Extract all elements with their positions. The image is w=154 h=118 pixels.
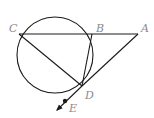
geometry-diagram: C B A D E <box>0 0 154 118</box>
label-b: B <box>95 22 104 35</box>
point-e-dot <box>63 99 67 103</box>
label-e: E <box>68 102 77 115</box>
label-c: C <box>9 22 18 35</box>
label-d: D <box>84 89 94 102</box>
label-a: A <box>140 22 149 35</box>
circle <box>17 17 93 93</box>
segment-cd <box>19 34 82 86</box>
